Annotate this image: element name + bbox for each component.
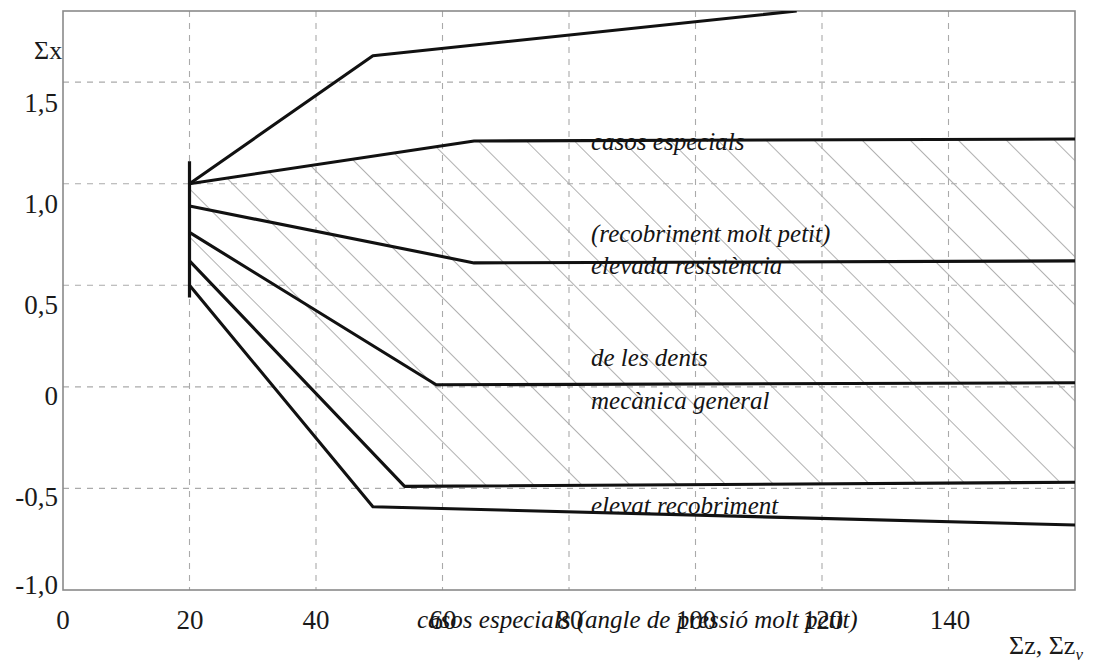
y-tick-label--1.0: -1,0 [0, 570, 58, 601]
annotation-line: elevada resistència [591, 251, 782, 282]
y-tick-label-1.0: 1,0 [0, 189, 58, 220]
annotation-casos-especials-angle-de-pressio-molt-petit: casos especials (angle de pressió molt p… [417, 544, 858, 664]
y-tick-label--0.5: -0,5 [0, 482, 58, 513]
y-axis-title: Σx [8, 6, 62, 96]
y-axis-title-text: Σx [34, 36, 62, 65]
y-tick-label-1.5: 1,5 [0, 88, 58, 119]
x-tick-label-0: 0 [32, 605, 94, 636]
y-tick-label-0.5: 0,5 [0, 290, 58, 321]
x-axis-title-part1: Σz, [1009, 631, 1042, 660]
x-axis-title: Σz, Σzv [983, 601, 1083, 664]
annotation-line: casos especials (angle de pressió molt p… [417, 605, 858, 636]
annotation-line: mecànica general [591, 386, 769, 417]
x-tick-label-20: 20 [159, 605, 221, 636]
annotation-line: casos especials [591, 127, 830, 158]
y-tick-label-0: 0 [0, 381, 58, 412]
x-axis-title-subscript: v [1075, 645, 1083, 664]
annotation-line: elevat recobriment [591, 491, 778, 522]
x-tick-label-40: 40 [285, 605, 347, 636]
x-axis-title-part2: Σz [1049, 631, 1076, 660]
x-tick-label-140: 140 [919, 605, 981, 636]
